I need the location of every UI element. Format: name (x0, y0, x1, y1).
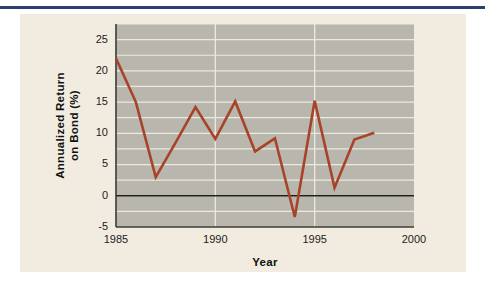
figure-panel: -50510152025 1985199019952000 Annualized… (20, 14, 466, 272)
y-tick-label: 20 (96, 64, 108, 76)
y-tick-label: 0 (102, 189, 108, 201)
y-tick-label: 5 (102, 157, 108, 169)
x-axis-title: Year (252, 256, 278, 268)
y-axis-title: Annualized Return on Bond (%) (54, 72, 80, 179)
x-tick-label: 1995 (302, 233, 326, 245)
y-axis-title-line-1: Annualized Return (54, 72, 66, 179)
x-tick-label: 1990 (203, 233, 227, 245)
x-tick-label: 2000 (402, 233, 426, 245)
x-tick-label: 1985 (104, 233, 128, 245)
page-top-rule (0, 6, 485, 9)
plot-area-background (116, 24, 414, 227)
x-axis-tick-labels: 1985199019952000 (104, 233, 426, 245)
y-tick-label: 25 (96, 33, 108, 45)
y-axis-title-line-2: on Bond (%) (68, 90, 80, 161)
line-chart: -50510152025 1985199019952000 Annualized… (20, 14, 466, 272)
y-tick-label: 15 (96, 95, 108, 107)
y-tick-label: -5 (98, 220, 108, 232)
chart-svg: -50510152025 1985199019952000 Annualized… (20, 14, 466, 272)
y-tick-label: 10 (96, 126, 108, 138)
y-axis-tick-labels: -50510152025 (96, 33, 108, 232)
